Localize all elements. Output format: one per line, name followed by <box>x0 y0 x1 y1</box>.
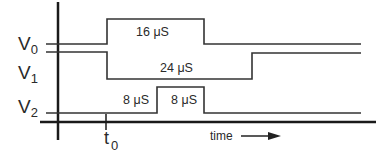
v2-pulse-duration-low: 8 μS <box>123 93 149 107</box>
v0-waveform <box>46 19 361 44</box>
arrow-right-icon <box>268 132 281 140</box>
timing-diagram: V0 V1 V2 16 μS 24 μS 8 μS 8 μS t0 time <box>0 0 390 158</box>
v1-label: V1 <box>18 62 38 86</box>
time-axis-label: time <box>210 129 233 143</box>
diagram-lines <box>0 0 390 158</box>
v0-pulse-duration: 16 μS <box>136 25 169 39</box>
v1-pulse-duration: 24 μS <box>160 61 193 75</box>
v0-label: V0 <box>18 33 38 57</box>
t0-label: t0 <box>104 128 118 153</box>
v1-waveform <box>46 52 361 79</box>
v2-label: V2 <box>18 96 38 120</box>
v2-waveform <box>46 87 361 113</box>
v2-pulse-duration-high: 8 μS <box>171 93 197 107</box>
